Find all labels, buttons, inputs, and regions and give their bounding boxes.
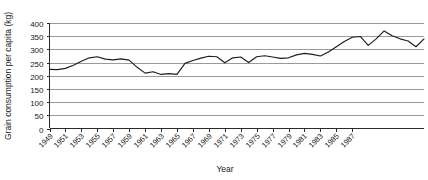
x-axis-title: Year	[216, 164, 233, 174]
x-tick-label: 1961	[132, 132, 150, 150]
x-tick-label: 1979	[276, 132, 294, 150]
x-tick-label: 1969	[196, 132, 214, 150]
x-tick-label: 1953	[68, 132, 86, 150]
x-tick-label: 1971	[212, 132, 230, 150]
y-tick-label: 400	[30, 20, 44, 29]
x-tick-label: 1957	[100, 132, 118, 150]
x-tick-label: 1951	[52, 132, 70, 150]
y-tick-label: 350	[30, 33, 44, 42]
y-tick-label: 150	[30, 86, 44, 95]
x-tick-label: 1983	[307, 132, 325, 150]
x-tick-label: 1965	[164, 132, 182, 150]
gridlines	[50, 24, 425, 116]
x-tick-label: 1959	[116, 132, 134, 150]
y-tick-label: 300	[30, 46, 44, 55]
x-tick-label: 1985	[323, 132, 341, 150]
x-tick-label: 1973	[228, 132, 246, 150]
line-chart-canvas: 050100150200250300350400 194919511953195…	[0, 0, 428, 180]
x-tick-label: 1981	[291, 132, 309, 150]
x-tick-label: 1987	[339, 132, 357, 150]
series-line-grain-consumption	[50, 31, 425, 75]
y-tick-label: 50	[35, 112, 44, 121]
x-tick-label: 1955	[84, 132, 102, 150]
x-tick-label: 1977	[260, 132, 278, 150]
y-tick-label: 250	[30, 60, 44, 69]
y-axis-tick-labels: 050100150200250300350400	[30, 20, 44, 135]
x-axis-tick-labels: 1949195119531955195719591961196319651967…	[37, 132, 357, 150]
x-tick-label: 1975	[244, 132, 262, 150]
chart-figure: 050100150200250300350400 194919511953195…	[0, 0, 428, 180]
x-tick-label: 1963	[148, 132, 166, 150]
x-tick-label: 1967	[180, 132, 198, 150]
y-tick-label: 200	[30, 73, 44, 82]
y-tick-label: 0	[39, 126, 44, 135]
y-tick-label: 100	[30, 99, 44, 108]
y-axis-title: Grain consumption per capita (kg)	[3, 12, 13, 140]
